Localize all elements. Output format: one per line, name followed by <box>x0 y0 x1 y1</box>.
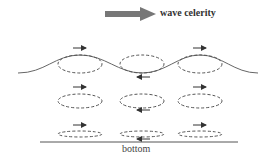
wave-celerity-label: wave celerity <box>160 7 216 18</box>
velocity-arrows <box>73 48 206 139</box>
bottom-label: bottom <box>122 143 150 154</box>
wave-celerity-arrow-icon <box>105 7 156 21</box>
wave-orbital-diagram <box>0 0 276 160</box>
